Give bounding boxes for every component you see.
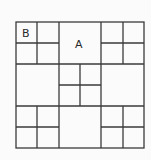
block-bottom-right [101,106,144,148]
block-bottom-left [16,106,59,148]
block-center [59,64,101,106]
block-top-right [101,22,144,64]
label-b: B [22,27,30,40]
label-a: A [75,38,83,51]
grid-diagram: B A [0,0,151,160]
